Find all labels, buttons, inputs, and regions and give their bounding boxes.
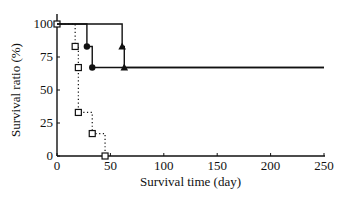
circle-marker: [84, 43, 90, 49]
square-marker: [72, 43, 78, 49]
circle-marker: [89, 64, 95, 70]
square-marker: [75, 109, 81, 115]
square-marker: [75, 65, 81, 71]
x-tick-label: 100: [154, 158, 174, 173]
y-tick-label: 0: [47, 148, 54, 163]
x-tick-label: 50: [104, 158, 117, 173]
y-tick-label: 50: [40, 82, 53, 97]
x-tick-label: 200: [261, 158, 281, 173]
y-tick-label: 25: [40, 115, 53, 130]
series-line-filled-triangle-solid: [57, 24, 324, 68]
y-tick-label: 100: [34, 16, 54, 31]
x-tick-label: 150: [207, 158, 227, 173]
y-axis-title: Survival ratio (%): [8, 43, 23, 137]
survival-chart: 0501001502002500255075100Survival time (…: [0, 0, 350, 199]
series-line-open-square-dotted: [57, 24, 105, 156]
x-tick-label: 250: [314, 158, 334, 173]
x-axis-title: Survival time (day): [140, 174, 241, 189]
square-marker: [102, 153, 108, 159]
y-tick-label: 75: [40, 49, 53, 64]
square-marker: [89, 131, 95, 137]
x-tick-label: 0: [54, 158, 61, 173]
series-line-filled-circle-solid: [57, 24, 324, 68]
